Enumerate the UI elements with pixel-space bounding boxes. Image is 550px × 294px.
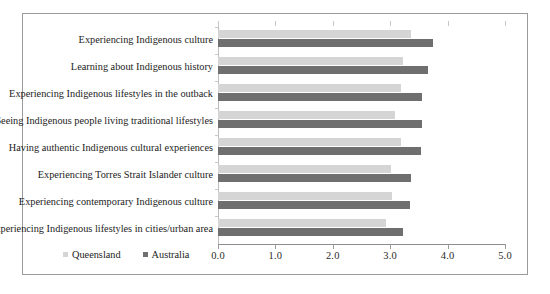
x-axis-tick: [505, 244, 506, 249]
x-axis-tick: [275, 244, 276, 249]
category-axis-tick: [215, 81, 219, 82]
legend-label: Australia: [152, 249, 190, 260]
legend-swatch-icon: [63, 252, 68, 257]
bar-queensland: [218, 84, 401, 92]
x-axis-tick-top: [218, 21, 219, 26]
bar-australia: [218, 93, 422, 101]
legend-item-aus[interactable]: Australia: [143, 249, 190, 260]
category-label: Seeing Indigenous people living traditio…: [0, 114, 213, 127]
x-axis-tick-label: 4.0: [428, 250, 468, 261]
chart-row: Having authentic Indigenous cultural exp…: [23, 135, 527, 162]
x-axis-tick-top: [448, 21, 449, 26]
chart-row: Experiencing Torres Strait Islander cult…: [23, 162, 527, 189]
legend-swatch-icon: [143, 252, 148, 257]
bar-australia: [218, 201, 410, 209]
legend-label: Queensland: [72, 249, 121, 260]
x-axis-tick: [333, 244, 334, 249]
legend-item-qld[interactable]: Queensland: [63, 249, 121, 260]
bar-queensland: [218, 111, 395, 119]
chart-row: Learning about Indigenous history: [23, 54, 527, 81]
category-axis-tick: [215, 108, 219, 109]
category-label: Learning about Indigenous history: [0, 60, 213, 73]
bar-australia: [218, 174, 411, 182]
category-axis-tick: [215, 216, 219, 217]
x-axis-tick: [390, 244, 391, 249]
bar-queensland: [218, 57, 403, 65]
category-label: Experiencing Indigenous culture: [0, 33, 213, 46]
bar-queensland: [218, 192, 392, 200]
bar-australia: [218, 147, 421, 155]
chart-row: Experiencing contemporary Indigenous cul…: [23, 189, 527, 216]
category-label: Experiencing Torres Strait Islander cult…: [0, 168, 213, 181]
x-axis-tick-label: 1.0: [255, 250, 295, 261]
bar-australia: [218, 228, 403, 236]
axis-baseline: [218, 244, 505, 245]
category-axis-tick: [215, 135, 219, 136]
x-axis-tick-top: [390, 21, 391, 26]
category-axis-tick: [215, 27, 219, 28]
bar-australia: [218, 39, 433, 47]
x-axis-tick-label: 2.0: [313, 250, 353, 261]
chart-legend: QueenslandAustralia: [63, 247, 189, 261]
category-label: Having authentic Indigenous cultural exp…: [0, 141, 213, 154]
category-label: Experiencing Indigenous lifestyles in ci…: [0, 222, 213, 235]
category-axis-tick: [215, 162, 219, 163]
category-axis-tick: [215, 189, 219, 190]
chart-figure: 0.01.02.03.04.05.0Experiencing Indigenou…: [22, 13, 528, 275]
bar-queensland: [218, 219, 386, 227]
plot-area: 0.01.02.03.04.05.0Experiencing Indigenou…: [23, 14, 527, 274]
chart-row: Experiencing Indigenous lifestyles in th…: [23, 81, 527, 108]
bar-queensland: [218, 30, 411, 38]
chart-row: Experiencing Indigenous lifestyles in ci…: [23, 216, 527, 243]
x-axis-tick-label: 0.0: [198, 250, 238, 261]
x-axis-tick-top: [505, 21, 506, 26]
bar-queensland: [218, 165, 391, 173]
bar-queensland: [218, 138, 401, 146]
x-axis-tick-label: 5.0: [485, 250, 525, 261]
x-axis-tick: [448, 244, 449, 249]
chart-row: Seeing Indigenous people living traditio…: [23, 108, 527, 135]
x-axis-tick-top: [275, 21, 276, 26]
bar-australia: [218, 66, 428, 74]
x-axis-tick-top: [333, 21, 334, 26]
bar-australia: [218, 120, 422, 128]
category-label: Experiencing contemporary Indigenous cul…: [0, 195, 213, 208]
category-label: Experiencing Indigenous lifestyles in th…: [0, 87, 213, 100]
x-axis-tick-label: 3.0: [370, 250, 410, 261]
category-axis-tick: [215, 54, 219, 55]
chart-row: Experiencing Indigenous culture: [23, 27, 527, 54]
x-axis-tick: [218, 244, 219, 249]
